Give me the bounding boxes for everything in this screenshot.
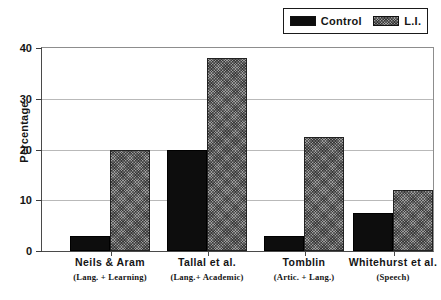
- legend-swatch-li-icon: [373, 16, 399, 26]
- x-axis-group-name: Whitehurst et al.: [333, 256, 441, 269]
- y-axis-tick-label: 20: [20, 144, 32, 156]
- legend-label-control: Control: [321, 16, 362, 27]
- legend-item-control: Control: [290, 16, 362, 27]
- x-axis-group-label: Whitehurst et al.(Speech): [333, 256, 441, 283]
- bar-control: [353, 213, 393, 251]
- bar-control: [70, 236, 110, 251]
- bar-group: [353, 48, 433, 251]
- y-axis-tick-label: 0: [26, 245, 32, 257]
- plot-area: 010203040: [41, 47, 434, 252]
- bar-group: [167, 48, 247, 251]
- x-axis-group-sublabel: (Speech): [333, 272, 441, 283]
- chart-legend: Control L.I.: [283, 8, 428, 34]
- y-axis-tick: [36, 150, 42, 151]
- y-axis-tick-label: 30: [20, 93, 32, 105]
- bar-group: [70, 48, 150, 251]
- y-axis-tick: [36, 251, 42, 252]
- bar-li: [304, 137, 344, 251]
- y-axis-tick-label: 40: [20, 42, 32, 54]
- y-axis-tick: [36, 48, 42, 49]
- y-axis-title: Percentage: [18, 72, 30, 192]
- bar-li: [110, 150, 150, 252]
- y-axis-tick-label: 10: [20, 194, 32, 206]
- y-axis-tick: [36, 200, 42, 201]
- bar-control: [264, 236, 304, 251]
- bar-control: [167, 150, 207, 252]
- y-axis-tick: [36, 99, 42, 100]
- bar-li: [207, 58, 247, 251]
- legend-label-li: L.I.: [404, 16, 421, 27]
- bar-li: [393, 190, 433, 251]
- legend-item-li: L.I.: [373, 16, 421, 27]
- bar-group: [264, 48, 344, 251]
- legend-swatch-control-icon: [290, 16, 316, 26]
